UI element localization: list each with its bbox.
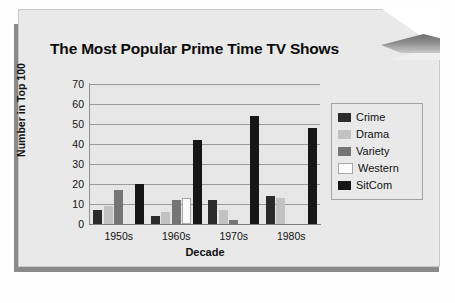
bar-crime-1970s <box>208 200 217 224</box>
legend-label: Crime <box>356 112 385 123</box>
legend-label: Variety <box>356 146 389 157</box>
bar-group <box>263 84 321 224</box>
bar-crime-1960s <box>151 216 160 224</box>
legend-item-sitcom[interactable]: SitCom <box>338 177 422 194</box>
bar-western-1960s <box>182 198 191 224</box>
bar-drama-1950s <box>104 206 113 224</box>
bar-drama-1970s <box>219 210 228 224</box>
y-tick-20: 20 <box>60 179 84 189</box>
y-tick-60: 60 <box>60 99 84 109</box>
y-axis-title: Number in Top 100 <box>15 40 27 180</box>
legend-item-variety[interactable]: Variety <box>338 143 422 160</box>
x-axis-line <box>89 224 321 225</box>
plot-area <box>90 84 320 224</box>
y-axis-tick-labels: 010203040506070 <box>58 84 84 224</box>
legend-item-crime[interactable]: Crime <box>338 109 422 126</box>
bar-variety-1960s <box>172 200 181 224</box>
legend-label: Drama <box>356 129 389 140</box>
chart-title: The Most Popular Prime Time TV Shows <box>22 40 367 58</box>
bar-crime-1950s <box>93 210 102 224</box>
bar-crime-1980s <box>266 196 275 224</box>
legend-swatch-icon-drama <box>338 130 351 139</box>
x-tick-1980s: 1980s <box>262 230 320 242</box>
y-axis-line <box>89 83 90 225</box>
legend-item-western[interactable]: Western <box>338 160 422 177</box>
x-tick-1950s: 1950s <box>90 230 148 242</box>
bar-sitcom-1980s <box>308 128 317 224</box>
y-tick-70: 70 <box>60 79 84 89</box>
y-tick-10: 10 <box>60 199 84 209</box>
legend-swatch-icon-sitcom <box>338 181 351 190</box>
y-tick-50: 50 <box>60 119 84 129</box>
bar-sitcom-1950s <box>135 184 144 224</box>
legend-item-drama[interactable]: Drama <box>338 126 422 143</box>
chart-page: The Most Popular Prime Time TV Shows 010… <box>0 0 455 303</box>
bar-group <box>205 84 263 224</box>
bar-group <box>148 84 206 224</box>
x-tick-1960s: 1960s <box>147 230 205 242</box>
legend-swatch-icon-western <box>338 163 353 174</box>
legend-swatch-icon-variety <box>338 147 351 156</box>
y-tick-0: 0 <box>60 219 84 229</box>
x-axis-title: Decade <box>90 246 320 258</box>
bar-variety-1950s <box>114 190 123 224</box>
legend-label: Western <box>358 163 399 174</box>
bar-drama-1960s <box>161 212 170 224</box>
y-tick-40: 40 <box>60 139 84 149</box>
bar-sitcom-1970s <box>250 116 259 224</box>
bar-sitcom-1960s <box>193 140 202 224</box>
chart-legend: CrimeDramaVarietyWesternSitCom <box>331 103 423 200</box>
y-tick-30: 30 <box>60 159 84 169</box>
legend-label: SitCom <box>356 180 392 191</box>
bar-drama-1980s <box>276 198 285 224</box>
page-curl-icon <box>381 34 440 53</box>
bar-group <box>90 84 148 224</box>
legend-swatch-icon-crime <box>338 113 351 122</box>
x-tick-1970s: 1970s <box>205 230 263 242</box>
